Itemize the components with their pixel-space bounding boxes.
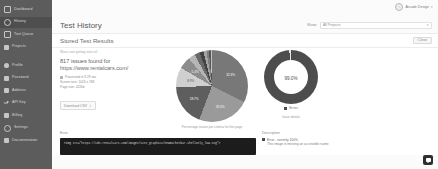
page-header: Test History Show: All Projects ▾ [52,14,438,30]
legend-swatch [284,107,287,110]
pie-label: 18.7% [190,97,199,101]
donut-center-value: 99.0% [284,76,297,81]
download-csv-button[interactable]: Download CSV ⇩ [60,101,96,110]
description-column: Description Error - severity 100% This i… [256,131,432,155]
topbar: ○ Arcade Design ▾ [52,0,438,14]
app-root: Dashboard History Test Queue Projects Pr… [0,0,438,169]
sidebar-item-address[interactable]: Address [0,85,52,96]
sidebar-item-label: History [14,20,26,24]
sidebar-item-api-key[interactable]: API Key [0,98,52,109]
project-select-value: All Projects [323,23,341,27]
sidebar-item-label: Address [12,89,26,93]
sidebar-item-password[interactable]: Password [0,73,52,84]
pie-label: 5.4% [192,70,199,74]
error-column: Error <img src="https://cdn.rentalcars.c… [60,131,256,155]
project-filter: Show: All Projects ▾ [307,22,432,31]
pie-label: 23.5% [216,105,225,109]
sidebar-item-history[interactable]: History [0,17,52,28]
sidebar-item-label: Profile [12,64,23,68]
panel-title: Stored Test Results [60,37,114,44]
clock-icon [4,19,11,26]
donut-legend: Errors [284,106,298,110]
severity-text: Error - severity 100% [267,138,298,142]
description-text-group: Error - severity 100% This image is miss… [267,138,329,148]
meta-page-size: Page size: 422kb [60,85,84,90]
sidebar-item-label: Projects [12,45,26,49]
project-select[interactable]: All Projects ▾ [320,22,432,30]
gear-icon [4,125,11,132]
panel-subline: Wave cant getting start url. [60,50,172,54]
sidebar-item-label: Billing [12,114,22,118]
sidebar-item-test-queue[interactable]: Test Queue [0,29,52,40]
chevron-down-icon: ▾ [427,23,429,27]
errors-donut-chart: 99.0% Errors Issue details [264,50,318,119]
sidebar: Dashboard History Test Queue Projects Pr… [0,0,52,169]
panel-body: Wave cant getting start url. 817 issues … [52,48,438,129]
sidebar-item-label: Test Queue [14,33,33,37]
issues-count: 817 issues found for [60,58,172,65]
test-meta: Processed in 9.29 sec Screen size: 1024 … [60,75,172,89]
sidebar-item-projects[interactable]: Projects [0,42,52,53]
pie-label: 8.9% [187,79,194,83]
stored-results-panel: Stored Test Results Close Wave cant gett… [52,34,438,155]
user-icon [4,63,9,68]
card-icon [4,113,9,118]
sidebar-item-label: Password [12,76,29,80]
clock-icon [60,76,63,79]
folder-icon [4,45,9,50]
tested-url: https://www.rentalcars.com/ [60,65,172,72]
page-title: Test History [60,22,102,30]
grid-icon [4,6,11,13]
book-icon [4,138,9,143]
sidebar-item-label: Settings [14,126,28,130]
error-swatch-icon [262,138,265,141]
close-button[interactable]: Close [413,37,432,45]
issue-text: This image is missing an accessible name [267,142,329,146]
show-label: Show: [307,23,317,27]
code-snippet[interactable]: <img src="https://cdn.rentalcars.com/ima… [60,138,256,155]
panel-header: Stored Test Results Close [52,34,438,49]
pie-label: 32.3% [226,73,235,77]
lock-icon [4,76,9,81]
download-label: Download CSV [64,104,87,108]
description-body: Error - severity 100% This image is miss… [262,138,432,148]
sidebar-item-label: API Key [12,101,26,105]
sidebar-item-documentation[interactable]: Documentation [0,135,52,146]
sidebar-item-billing[interactable]: Billing [0,110,52,121]
issues-pie-chart: 32.3% 23.5% 18.7% 8.9% 5.4% Percentage i… [176,50,248,129]
sidebar-item-settings[interactable]: Settings [0,123,52,134]
charts-area: 32.3% 23.5% 18.7% 8.9% 5.4% Percentage i… [172,50,432,129]
chevron-down-icon: ▾ [431,5,433,9]
chat-bubble-icon[interactable] [423,155,433,165]
sidebar-item-profile[interactable]: Profile [0,60,52,71]
meta-row: Page size: 422kb [60,85,172,90]
account-name: Arcade Design [405,5,429,9]
chat-glyph [426,158,431,162]
donut-caption: Issue details [282,115,300,119]
pie-caption: Percentage issues per criteria for this … [182,125,243,129]
issues-summary: 817 issues found for https://www.rentalc… [60,58,172,72]
account-menu[interactable]: ○ Arcade Design ▾ [395,3,433,11]
pie-wrapper: 32.3% 23.5% 18.7% 8.9% 5.4% [176,50,248,122]
sidebar-item-label: Dashboard [14,8,32,12]
sidebar-item-label: Documentation [12,139,37,143]
summary-column: Wave cant getting start url. 817 issues … [60,50,172,129]
donut-wrapper: 99.0% [264,50,318,104]
download-icon: ⇩ [89,104,92,108]
error-label: Error [60,131,256,135]
sidebar-item-dashboard[interactable]: Dashboard [0,4,52,15]
description-label: Description [262,131,432,135]
home-icon [4,88,9,93]
legend-label: Errors [289,106,298,110]
pie-slices[interactable] [176,50,248,122]
main-content: ○ Arcade Design ▾ Test History Show: All… [52,0,438,169]
avatar: ○ [395,3,403,11]
detail-section: Error <img src="https://cdn.rentalcars.c… [52,131,438,155]
key-icon [4,101,9,106]
queue-icon [4,31,11,38]
